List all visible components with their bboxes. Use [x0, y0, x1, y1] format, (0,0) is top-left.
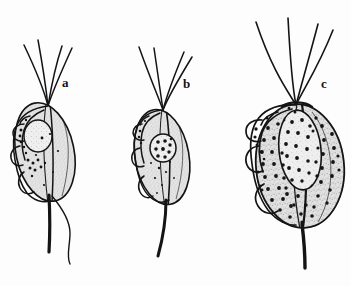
figure-canvas: a b c: [0, 0, 351, 286]
axostyle-a: [49, 195, 50, 252]
panel-label-a: a: [62, 76, 69, 89]
panel-label-c: c: [321, 77, 327, 90]
protozoa-illustration-svg: [0, 0, 351, 286]
nucleus-a: [24, 120, 52, 152]
nucleolus-a: [41, 137, 44, 140]
panel-label-b: b: [183, 77, 190, 90]
